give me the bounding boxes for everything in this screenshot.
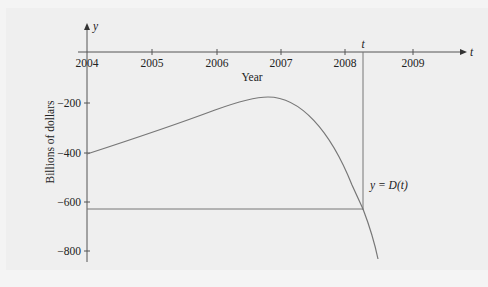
- deficit-curve: [87, 97, 378, 259]
- t-marker-label: t: [361, 38, 365, 50]
- y-tick-minus-800: −800: [57, 245, 81, 257]
- y-tick-minus-200: −200: [57, 97, 81, 109]
- x-tick-2004: 2004: [76, 57, 99, 69]
- x-tick-2005: 2005: [141, 57, 164, 69]
- x-axis-label: Year: [241, 71, 262, 83]
- x-tick-2009: 2009: [402, 57, 425, 69]
- y-axis-arrow-icon: [84, 23, 90, 30]
- curve-label: y = D(t): [369, 179, 408, 192]
- x-tick-2008: 2008: [334, 57, 357, 69]
- t-axis-var: t: [470, 46, 474, 58]
- figure-page: t y 2004 2005 2006 2007 2008 2009 Year −…: [0, 0, 488, 287]
- x-tick-2006: 2006: [206, 57, 229, 69]
- y-axis-label: Billions of dollars: [44, 100, 56, 184]
- deficit-chart: t y 2004 2005 2006 2007 2008 2009 Year −…: [0, 0, 488, 287]
- x-axis-arrow-icon: [460, 49, 467, 55]
- y-axis-var: y: [92, 20, 99, 33]
- y-tick-minus-400: −400: [57, 147, 81, 159]
- x-tick-2007: 2007: [270, 57, 293, 69]
- y-tick-minus-600: −600: [57, 196, 81, 208]
